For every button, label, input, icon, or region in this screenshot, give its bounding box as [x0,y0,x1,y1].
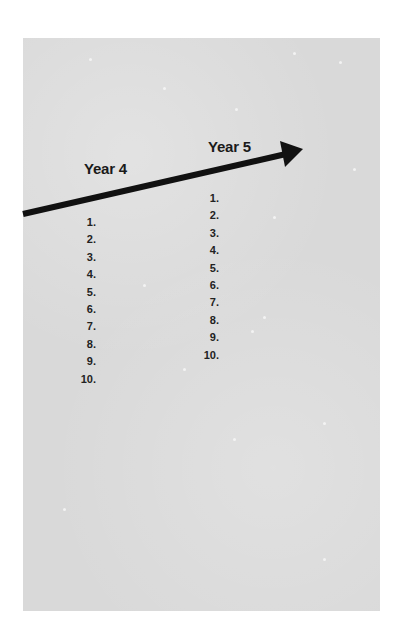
list-item: 4. [194,242,219,259]
list-item: 5. [70,284,96,301]
list-item: 7. [194,294,219,311]
year-4-heading: Year 4 [84,160,127,177]
list-item: 9. [70,353,96,370]
list-item: 1. [70,214,96,231]
list-item: 10. [194,347,219,364]
list-item: 3. [70,249,96,266]
list-item: 7. [70,318,96,335]
list-item: 3. [194,225,219,242]
list-item: 2. [194,207,219,224]
list-item: 10. [70,371,96,388]
year-5-list: 1. 2. 3. 4. 5. 6. 7. 8. 9. 10. [194,190,219,364]
list-item: 2. [70,231,96,248]
list-item: 8. [70,336,96,353]
year-5-heading: Year 5 [208,138,251,155]
list-item: 1. [194,190,219,207]
list-item: 5. [194,260,219,277]
list-item: 4. [70,266,96,283]
list-item: 9. [194,329,219,346]
list-item: 8. [194,312,219,329]
list-item: 6. [70,301,96,318]
year-4-list: 1. 2. 3. 4. 5. 6. 7. 8. 9. 10. [70,214,96,388]
list-item: 6. [194,277,219,294]
